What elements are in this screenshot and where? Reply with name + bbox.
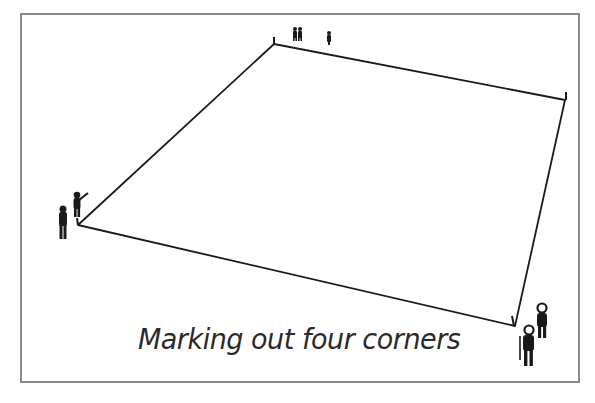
person-icon-top-2 [298, 27, 302, 41]
person-icon-top-3 [327, 31, 331, 45]
person-icon-bottom-right-back [537, 304, 547, 339]
person-icon-top-1 [293, 27, 297, 41]
figure-caption: Marking out four corners [138, 322, 445, 356]
person-icon-bottom-right-front [520, 326, 534, 367]
person-icon-left-standing [59, 206, 67, 240]
person-icon-left-pointing [74, 192, 89, 217]
corner-marker-bottom-left [77, 218, 78, 225]
field-boundary [78, 44, 565, 326]
